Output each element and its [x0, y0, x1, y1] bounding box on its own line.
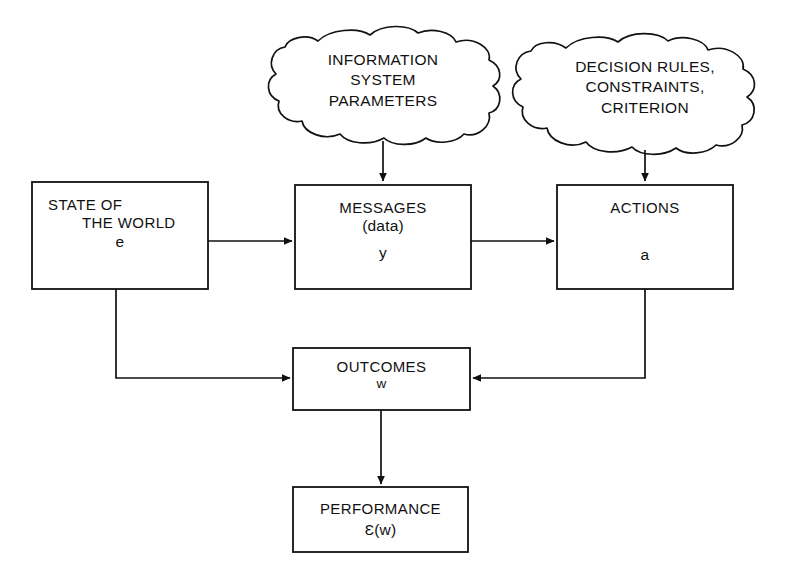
box-outcomes [293, 348, 470, 410]
box-messages [295, 185, 471, 289]
cloud-shape-information-system-parameters [268, 26, 499, 144]
edge-actions-to-outcomes [473, 289, 645, 378]
box-performance [293, 487, 468, 552]
edge-state-to-outcomes [116, 289, 290, 378]
box-state-of-the-world [32, 182, 208, 289]
flow-diagram: INFORMATION SYSTEM PARAMETERS DECISION R… [0, 0, 794, 578]
box-actions [557, 185, 733, 289]
diagram-canvas [0, 0, 794, 578]
cloud-shape-decision-rules [513, 34, 755, 155]
